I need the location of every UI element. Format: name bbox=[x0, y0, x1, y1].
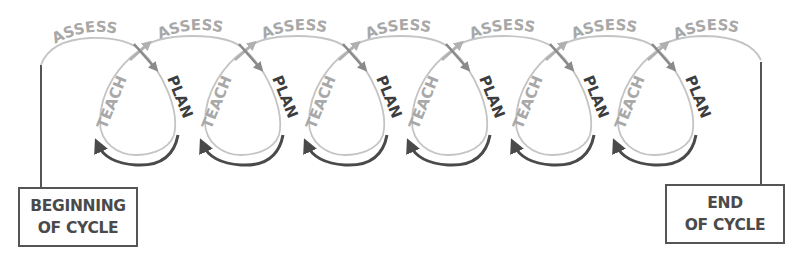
plan-to-teach-arrow-icon bbox=[410, 135, 490, 165]
teach-label-4: TEACH bbox=[509, 73, 547, 131]
end-line-1: END bbox=[707, 192, 743, 214]
plan-to-teach-arrow-icon bbox=[307, 135, 387, 165]
plan-to-teach-arrow-icon bbox=[203, 135, 283, 165]
plan-to-teach-arrow-icon bbox=[514, 135, 594, 165]
loops-group: TEACHPLANTEACHPLANTEACHPLANTEACHPLANTEAC… bbox=[93, 36, 715, 165]
teach-label-3: TEACH bbox=[405, 73, 443, 131]
teach-label-5: TEACH bbox=[611, 73, 649, 131]
start-connector bbox=[41, 38, 140, 188]
begin-line-2: OF CYCLE bbox=[38, 217, 119, 239]
plan-to-teach-arrow-icon bbox=[616, 135, 696, 165]
assess-label-0: ASSESS bbox=[49, 18, 119, 48]
begin-line-1: BEGINNING bbox=[30, 195, 126, 217]
plan-to-teach-arrow-icon bbox=[98, 135, 178, 165]
plan-label-5: PLAN bbox=[681, 73, 714, 121]
plan-label-2: PLAN bbox=[372, 73, 405, 121]
teach-label-1: TEACH bbox=[198, 73, 236, 131]
plan-label-1: PLAN bbox=[268, 73, 301, 121]
end-of-cycle-box: END OF CYCLE bbox=[665, 184, 785, 244]
assess-label-1: ASSESS bbox=[155, 16, 225, 43]
beginning-of-cycle-box: BEGINNING OF CYCLE bbox=[18, 187, 138, 247]
teach-label-2: TEACH bbox=[302, 73, 340, 131]
assess-label-5: ASSESS bbox=[569, 16, 639, 43]
plan-label-0: PLAN bbox=[163, 73, 196, 121]
plan-label-4: PLAN bbox=[579, 73, 612, 121]
end-line-2: OF CYCLE bbox=[685, 214, 766, 236]
assess-label-3: ASSESS bbox=[363, 16, 433, 43]
plan-label-3: PLAN bbox=[475, 73, 508, 121]
loop-5: TEACHPLAN bbox=[611, 44, 715, 165]
assess-label-2: ASSESS bbox=[259, 16, 329, 43]
teach-label-0: TEACH bbox=[93, 73, 131, 131]
assess-label-4: ASSESS bbox=[467, 16, 537, 43]
